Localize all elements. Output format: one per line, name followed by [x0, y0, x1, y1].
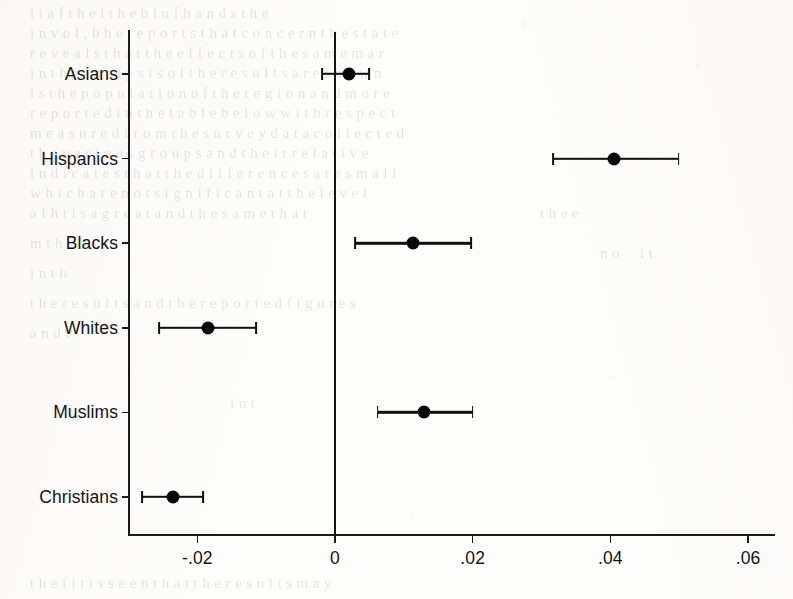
confidence-interval-cap [368, 68, 370, 80]
y-axis-line [128, 30, 130, 534]
confidence-interval-cap [470, 237, 472, 249]
confidence-interval-cap [377, 406, 379, 418]
confidence-interval-cap [141, 491, 143, 503]
x-axis-tick-label: .04 [598, 548, 623, 569]
estimate-point-marker [406, 237, 419, 250]
confidence-interval-cap [158, 322, 160, 334]
estimate-point-marker [342, 68, 355, 81]
x-axis-tick [610, 535, 612, 543]
scanned-figure-page: i i a f t h e i t h e b i u f h a n d s … [0, 0, 793, 599]
y-axis-tick-label: Hispanics [41, 148, 118, 169]
estimate-point-marker [202, 321, 215, 334]
confidence-interval-cap [354, 237, 356, 249]
y-axis-tick [122, 73, 129, 75]
y-axis-tick-label: Asians [65, 64, 118, 85]
y-axis-tick-label: Christians [39, 487, 118, 508]
y-axis-tick [122, 412, 129, 414]
y-axis-tick [122, 496, 129, 498]
estimate-point-marker [167, 491, 180, 504]
y-axis-tick [122, 242, 129, 244]
confidence-interval-cap [472, 406, 474, 418]
zero-reference-line [334, 32, 336, 534]
y-axis-tick-label: Muslims [53, 402, 118, 423]
x-axis-tick-label: -.02 [182, 548, 213, 569]
x-axis-tick-label: 0 [330, 548, 340, 569]
y-axis-tick [122, 158, 129, 160]
y-axis-tick [122, 327, 129, 329]
confidence-interval-cap [552, 153, 554, 165]
x-axis-tick [334, 535, 336, 543]
x-axis-tick [197, 535, 199, 543]
confidence-interval-cap [255, 322, 257, 334]
y-axis-tick-label: Blacks [66, 233, 118, 254]
coefficient-plot: AsiansHispanicsBlacksWhitesMuslimsChrist… [0, 0, 793, 599]
estimate-point-marker [607, 152, 620, 165]
y-axis-tick-label: Whites [64, 317, 118, 338]
confidence-interval-cap [321, 68, 323, 80]
confidence-interval-cap [678, 153, 680, 165]
estimate-point-marker [417, 406, 430, 419]
x-axis-tick-label: .06 [736, 548, 761, 569]
confidence-interval-cap [202, 491, 204, 503]
x-axis-tick [472, 535, 474, 543]
x-axis-tick [747, 535, 749, 543]
x-axis-line [128, 534, 775, 536]
x-axis-tick-label: .02 [460, 548, 485, 569]
